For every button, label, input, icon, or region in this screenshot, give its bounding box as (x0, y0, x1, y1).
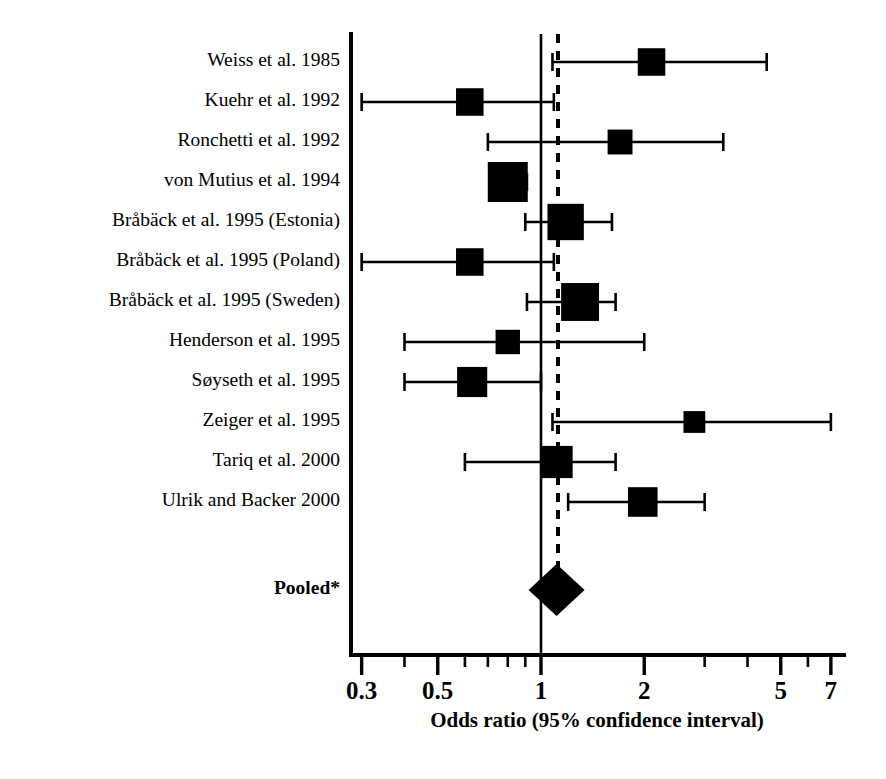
study-label: Ronchetti et al. 1992 (178, 129, 340, 150)
axis-ticks-group (362, 655, 831, 675)
axis-tick-labels-group: 0.30.51257 (346, 677, 837, 704)
study-effect-marker (683, 411, 705, 433)
study-effect-marker (540, 446, 572, 478)
plot-frame (351, 34, 844, 655)
study-row: Henderson et al. 1995 (169, 329, 644, 354)
axis-tick-label: 1 (535, 677, 548, 704)
axis-tick-label: 7 (825, 677, 838, 704)
study-row: Kuehr et al. 1992 (205, 88, 554, 116)
study-row: von Mutius et al. 1994 (164, 162, 528, 202)
study-effect-marker (638, 48, 666, 76)
axis-tick-label: 0.5 (422, 677, 453, 704)
study-label: Tariq et al. 2000 (212, 449, 340, 470)
study-effect-marker (457, 367, 487, 397)
study-label: Bråbäck et al. 1995 (Sweden) (109, 289, 340, 311)
study-effect-marker (488, 162, 528, 202)
study-row: Zeiger et al. 1995 (202, 409, 830, 432)
forest-plot-canvas: Weiss et al. 1985Kuehr et al. 1992Ronche… (0, 0, 886, 779)
x-axis-title: Odds ratio (95% confidence interval) (430, 708, 764, 732)
study-row: Søyseth et al. 1995 (192, 367, 541, 397)
axis-tick-label: 0.3 (346, 677, 377, 704)
study-row: Tariq et al. 2000 (212, 446, 615, 478)
study-label: Bråbäck et al. 1995 (Estonia) (112, 209, 340, 231)
axis-frame-path (351, 34, 844, 655)
study-effect-marker (628, 487, 658, 517)
study-effect-marker (456, 88, 484, 116)
study-effect-marker (608, 130, 633, 155)
pooled-effect-diamond (529, 564, 585, 616)
pooled-label: Pooled* (274, 577, 340, 598)
study-row: Weiss et al. 1985 (207, 48, 766, 76)
study-label: Bråbäck et al. 1995 (Poland) (116, 249, 340, 271)
study-label: Kuehr et al. 1992 (205, 89, 340, 110)
study-row: Bråbäck et al. 1995 (Estonia) (112, 204, 612, 240)
pooled-row: Pooled* (274, 564, 585, 616)
study-label: Zeiger et al. 1995 (202, 409, 340, 430)
study-label: Weiss et al. 1985 (207, 49, 340, 70)
study-label: von Mutius et al. 1994 (164, 169, 340, 190)
study-label: Søyseth et al. 1995 (192, 369, 340, 390)
study-label: Ulrik and Backer 2000 (162, 489, 340, 510)
study-effect-marker (561, 283, 599, 321)
study-label: Henderson et al. 1995 (169, 329, 340, 350)
study-effect-marker (547, 204, 583, 240)
study-row: Ronchetti et al. 1992 (178, 129, 724, 154)
axis-tick-label: 2 (638, 677, 651, 704)
study-row: Bråbäck et al. 1995 (Poland) (116, 248, 553, 276)
study-effect-marker (456, 248, 484, 276)
study-row: Bråbäck et al. 1995 (Sweden) (109, 283, 616, 321)
study-rows-group: Weiss et al. 1985Kuehr et al. 1992Ronche… (109, 48, 831, 616)
axis-tick-label: 5 (774, 677, 787, 704)
study-effect-marker (496, 330, 520, 354)
study-row: Ulrik and Backer 2000 (162, 487, 705, 517)
forest-plot-figure: Weiss et al. 1985Kuehr et al. 1992Ronche… (0, 0, 886, 779)
